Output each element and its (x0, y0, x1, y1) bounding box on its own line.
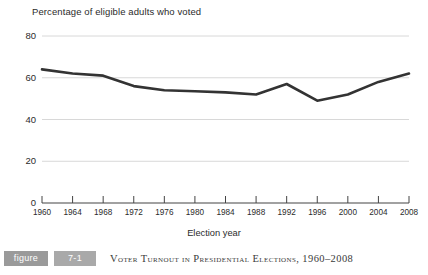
figure-caption: figure 7-1 Voter Turnout in Presidential… (4, 249, 353, 267)
y-axis-tick-label: 40 (14, 114, 36, 125)
y-axis-tick-label: 60 (14, 72, 36, 83)
x-axis-tick-label: 1996 (302, 208, 332, 217)
x-axis-tick-label: 2004 (363, 208, 393, 217)
x-axis-tick-label: 1984 (211, 208, 241, 217)
x-axis-tick-label: 1972 (119, 208, 149, 217)
figure-caption-text: Voter Turnout in Presidential Elections,… (110, 253, 353, 264)
figure-badge-label: figure (4, 251, 48, 266)
y-axis-tick-label: 20 (14, 155, 36, 166)
x-axis-tick-label: 1988 (241, 208, 271, 217)
x-axis-tick-label: 1968 (88, 208, 118, 217)
x-axis-tick-label: 1992 (272, 208, 302, 217)
figure-badge-number: 7-1 (54, 251, 96, 266)
x-axis-tick-label: 1964 (58, 208, 88, 217)
x-axis-title: Election year (0, 228, 428, 238)
data-line-voter-turnout (42, 69, 409, 100)
x-axis-tick-label: 1980 (180, 208, 210, 217)
x-axis-tick-label: 2008 (394, 208, 424, 217)
x-axis-ticks (42, 196, 409, 203)
y-axis-tick-label: 80 (14, 30, 36, 41)
x-axis-tick-label: 2000 (333, 208, 363, 217)
x-axis-tick-label: 1960 (27, 208, 57, 217)
figure-page: Percentage of eligible adults who voted … (0, 0, 428, 275)
y-axis-tick-label: 0 (14, 197, 36, 208)
x-axis-tick-label: 1976 (149, 208, 179, 217)
gridlines (42, 36, 409, 161)
